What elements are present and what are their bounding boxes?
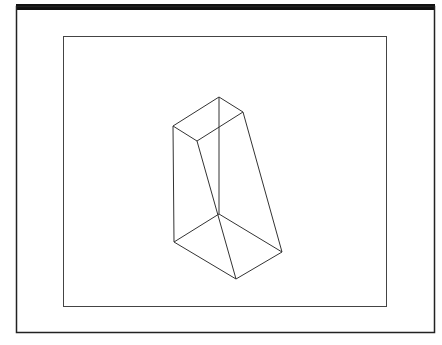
bottom-face bbox=[174, 214, 282, 279]
outer-frame bbox=[17, 7, 435, 333]
viewport-frame bbox=[64, 37, 387, 307]
edge-right bbox=[243, 112, 282, 252]
top-face bbox=[173, 97, 243, 141]
wireframe-prism bbox=[173, 97, 282, 279]
edge-left bbox=[173, 126, 174, 242]
diagram-canvas bbox=[0, 0, 442, 345]
edge-front bbox=[197, 141, 236, 279]
